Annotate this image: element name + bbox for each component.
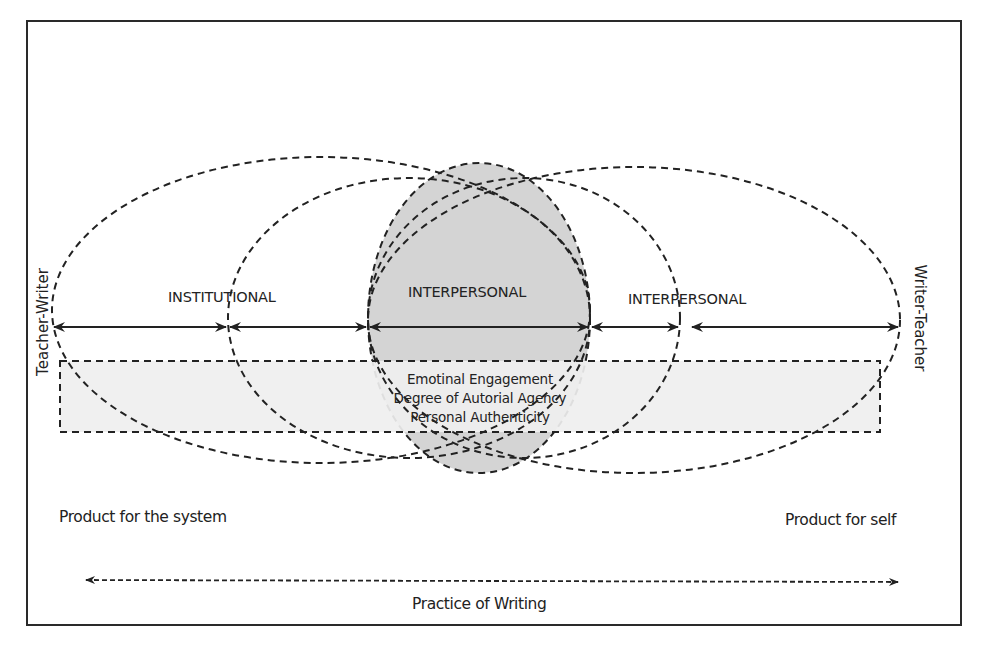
band-line-emotional-engagement: Emotinal Engagement	[330, 370, 630, 389]
axis-label-writer-teacher: Writer-Teacher	[911, 264, 929, 371]
practice-arrow	[86, 580, 898, 582]
product-for-self-label: Product for self	[785, 511, 896, 529]
band-text: Emotinal Engagement Degree of Autorial A…	[330, 370, 630, 427]
zone-label-interpersonal-core: INTERPERSONAL	[408, 284, 526, 300]
diagram-canvas	[0, 0, 984, 650]
practice-of-writing-label: Practice of Writing	[412, 595, 546, 613]
zone-label-institutional: INSTITUTIONAL	[168, 289, 276, 305]
product-for-system-label: Product for the system	[59, 508, 227, 526]
band-line-authorial-agency: Degree of Autorial Agency	[330, 389, 630, 408]
axis-label-teacher-writer: Teacher-Writer	[34, 268, 52, 376]
zone-label-interpersonal-outer: INTERPERSONAL	[628, 291, 746, 307]
band-line-personal-authenticity: Personal Authenticity	[330, 408, 630, 427]
